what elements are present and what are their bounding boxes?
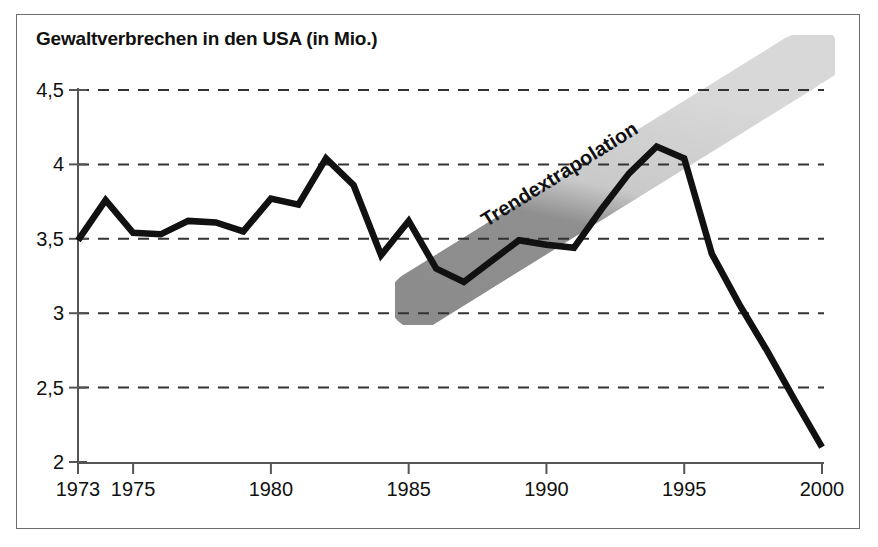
x-axis-tick-label: 1995: [662, 478, 707, 501]
x-axis-tick-label: 2000: [800, 478, 845, 501]
y-axis-tick-label: 2: [53, 451, 64, 474]
x-axis-ticks: [78, 463, 822, 474]
y-axis-tick-label: 4,5: [36, 79, 64, 102]
y-axis-tick-label: 3: [53, 302, 64, 325]
x-axis-tick-label: 1985: [386, 478, 431, 501]
x-axis-tick-label: 1975: [111, 478, 156, 501]
x-axis-tick-label: 1973: [56, 478, 101, 501]
y-axis-tick-label: 3,5: [36, 227, 64, 250]
y-axis-tick-label: 2,5: [36, 376, 64, 399]
x-axis-tick-label: 1980: [249, 478, 294, 501]
chart-plot-area: [0, 0, 878, 547]
y-axis-tick-label: 4: [53, 153, 64, 176]
x-axis-tick-label: 1990: [524, 478, 569, 501]
trend-extrapolation-band: [418, 40, 836, 300]
